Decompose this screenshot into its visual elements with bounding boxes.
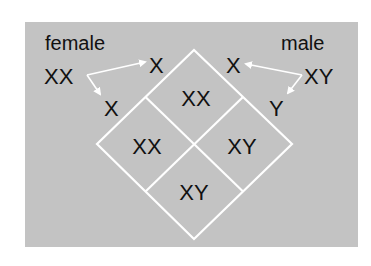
female-gamete-1: X xyxy=(149,53,164,78)
female-gamete-2: X xyxy=(104,96,119,121)
background-panel xyxy=(25,22,358,247)
female-genotype: XX xyxy=(44,64,74,89)
male-genotype: XY xyxy=(304,64,334,89)
female-label: female xyxy=(45,32,105,54)
punnett-square-diagram: female XX X X male XY X Y XX XX XY XY xyxy=(0,0,371,266)
cell-bottom: XY xyxy=(179,180,209,205)
cell-top: XX xyxy=(181,86,211,111)
male-gamete-2: Y xyxy=(269,96,284,121)
male-label: male xyxy=(281,32,324,54)
cell-left: XX xyxy=(132,134,162,159)
male-gamete-1: X xyxy=(226,53,241,78)
cell-right: XY xyxy=(227,134,257,159)
